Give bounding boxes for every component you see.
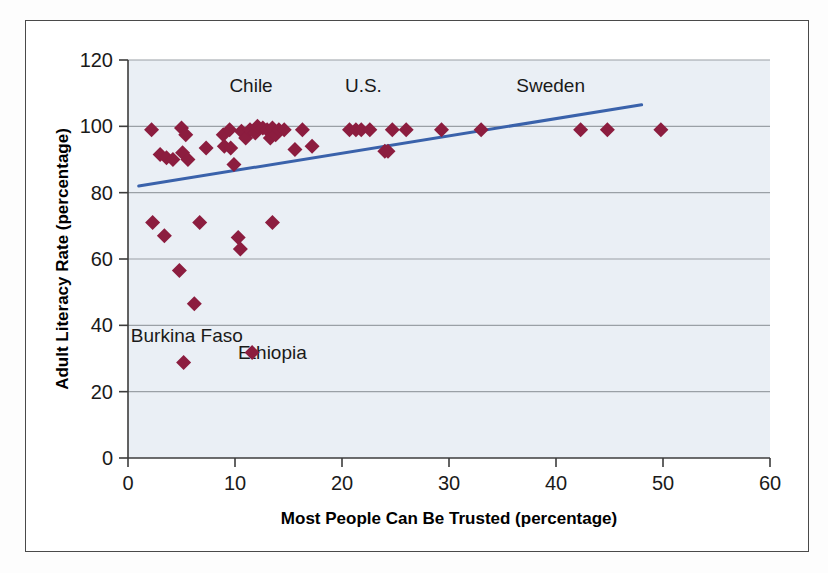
y-axis-tick-label: 120 bbox=[80, 49, 113, 71]
annotation-label: Burkina Faso bbox=[131, 325, 243, 346]
y-axis-tick-label: 0 bbox=[102, 447, 113, 469]
x-axis-tick-label: 10 bbox=[224, 472, 246, 494]
x-axis-title: Most People Can Be Trusted (percentage) bbox=[281, 509, 617, 528]
annotation-label: U.S. bbox=[345, 75, 382, 96]
annotation-label: Chile bbox=[229, 75, 272, 96]
y-axis-tick-label: 80 bbox=[91, 182, 113, 204]
x-axis-tick-label: 50 bbox=[652, 472, 674, 494]
x-axis-tick-label: 0 bbox=[122, 472, 133, 494]
x-axis-tick-label: 40 bbox=[545, 472, 567, 494]
y-axis-tick-label: 100 bbox=[80, 115, 113, 137]
scatter-chart: 0204060801001200102030405060Most People … bbox=[0, 0, 828, 573]
figure-canvas: 0204060801001200102030405060Most People … bbox=[0, 0, 828, 573]
x-axis-tick-label: 20 bbox=[331, 472, 353, 494]
y-axis-tick-label: 60 bbox=[91, 248, 113, 270]
y-axis-tick-label: 20 bbox=[91, 381, 113, 403]
y-axis-tick-label: 40 bbox=[91, 314, 113, 336]
y-axis-title-group: Adult Literacy Rate (percentage) bbox=[53, 128, 72, 390]
x-axis-tick-label: 30 bbox=[438, 472, 460, 494]
x-axis-tick-label: 60 bbox=[759, 472, 781, 494]
annotation-label: Sweden bbox=[516, 75, 585, 96]
y-axis-title: Adult Literacy Rate (percentage) bbox=[53, 128, 72, 390]
